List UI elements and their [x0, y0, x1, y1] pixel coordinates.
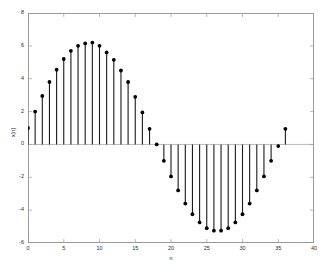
- x-tick-label: 5: [54, 246, 74, 252]
- data-point-marker: [119, 69, 123, 73]
- x-tick-label: 30: [233, 246, 253, 252]
- x-tick-label: 15: [125, 246, 145, 252]
- data-point-marker: [55, 68, 59, 72]
- data-point-marker: [183, 202, 187, 206]
- data-point-marker: [219, 229, 223, 233]
- y-tick-label: -6: [3, 240, 24, 246]
- x-tick-label: 40: [304, 246, 324, 252]
- y-tick-label: -2: [3, 174, 24, 180]
- data-point-marker: [262, 175, 266, 179]
- data-point-marker: [148, 127, 152, 131]
- data-point-marker: [176, 189, 180, 193]
- figure-canvas: -6-4-202468 0510152025303540 x[n] n: [0, 0, 334, 276]
- data-point-marker: [191, 212, 195, 216]
- data-point-marker: [248, 202, 252, 206]
- data-point-marker: [226, 226, 230, 230]
- data-point-marker: [269, 159, 273, 163]
- data-point-marker: [83, 41, 87, 45]
- data-point-marker: [62, 57, 66, 61]
- data-point-marker: [276, 144, 280, 148]
- x-tick-label: 0: [18, 246, 38, 252]
- data-point-marker: [90, 41, 94, 45]
- data-point-marker: [169, 175, 173, 179]
- data-point-marker: [198, 221, 202, 225]
- data-point-marker: [241, 212, 245, 216]
- x-tick-label: 35: [268, 246, 288, 252]
- data-point-marker: [48, 80, 52, 84]
- data-point-marker: [284, 127, 288, 131]
- y-tick-label: 8: [3, 10, 24, 16]
- data-point-marker: [205, 226, 209, 230]
- data-point-marker: [255, 189, 259, 193]
- data-point-marker: [105, 51, 109, 55]
- y-tick-label: 0: [3, 141, 24, 147]
- data-point-marker: [76, 44, 80, 48]
- data-point-marker: [112, 58, 116, 62]
- data-point-marker: [98, 44, 102, 48]
- data-point-marker: [133, 95, 137, 99]
- stem-lines: [28, 43, 285, 231]
- data-point-marker: [28, 126, 30, 130]
- data-point-marker: [233, 221, 237, 225]
- y-tick-label: 6: [3, 43, 24, 49]
- y-tick-label: -4: [3, 207, 24, 213]
- x-tick-label: 25: [197, 246, 217, 252]
- y-tick-label: 4: [3, 76, 24, 82]
- y-tick-label: 2: [3, 109, 24, 115]
- data-point-marker: [126, 80, 130, 84]
- data-point-markers: [28, 41, 287, 233]
- data-point-marker: [33, 110, 37, 114]
- stem-plot: [28, 13, 314, 243]
- data-point-marker: [141, 110, 145, 114]
- y-axis-label: x[n]: [10, 128, 16, 137]
- x-axis-label: n: [151, 255, 191, 261]
- data-point-marker: [40, 94, 44, 98]
- data-point-marker: [212, 229, 216, 233]
- x-tick-label: 10: [90, 246, 110, 252]
- x-tick-label: 20: [161, 246, 181, 252]
- data-point-marker: [162, 159, 166, 163]
- data-point-marker: [69, 49, 73, 53]
- data-point-marker: [155, 143, 159, 147]
